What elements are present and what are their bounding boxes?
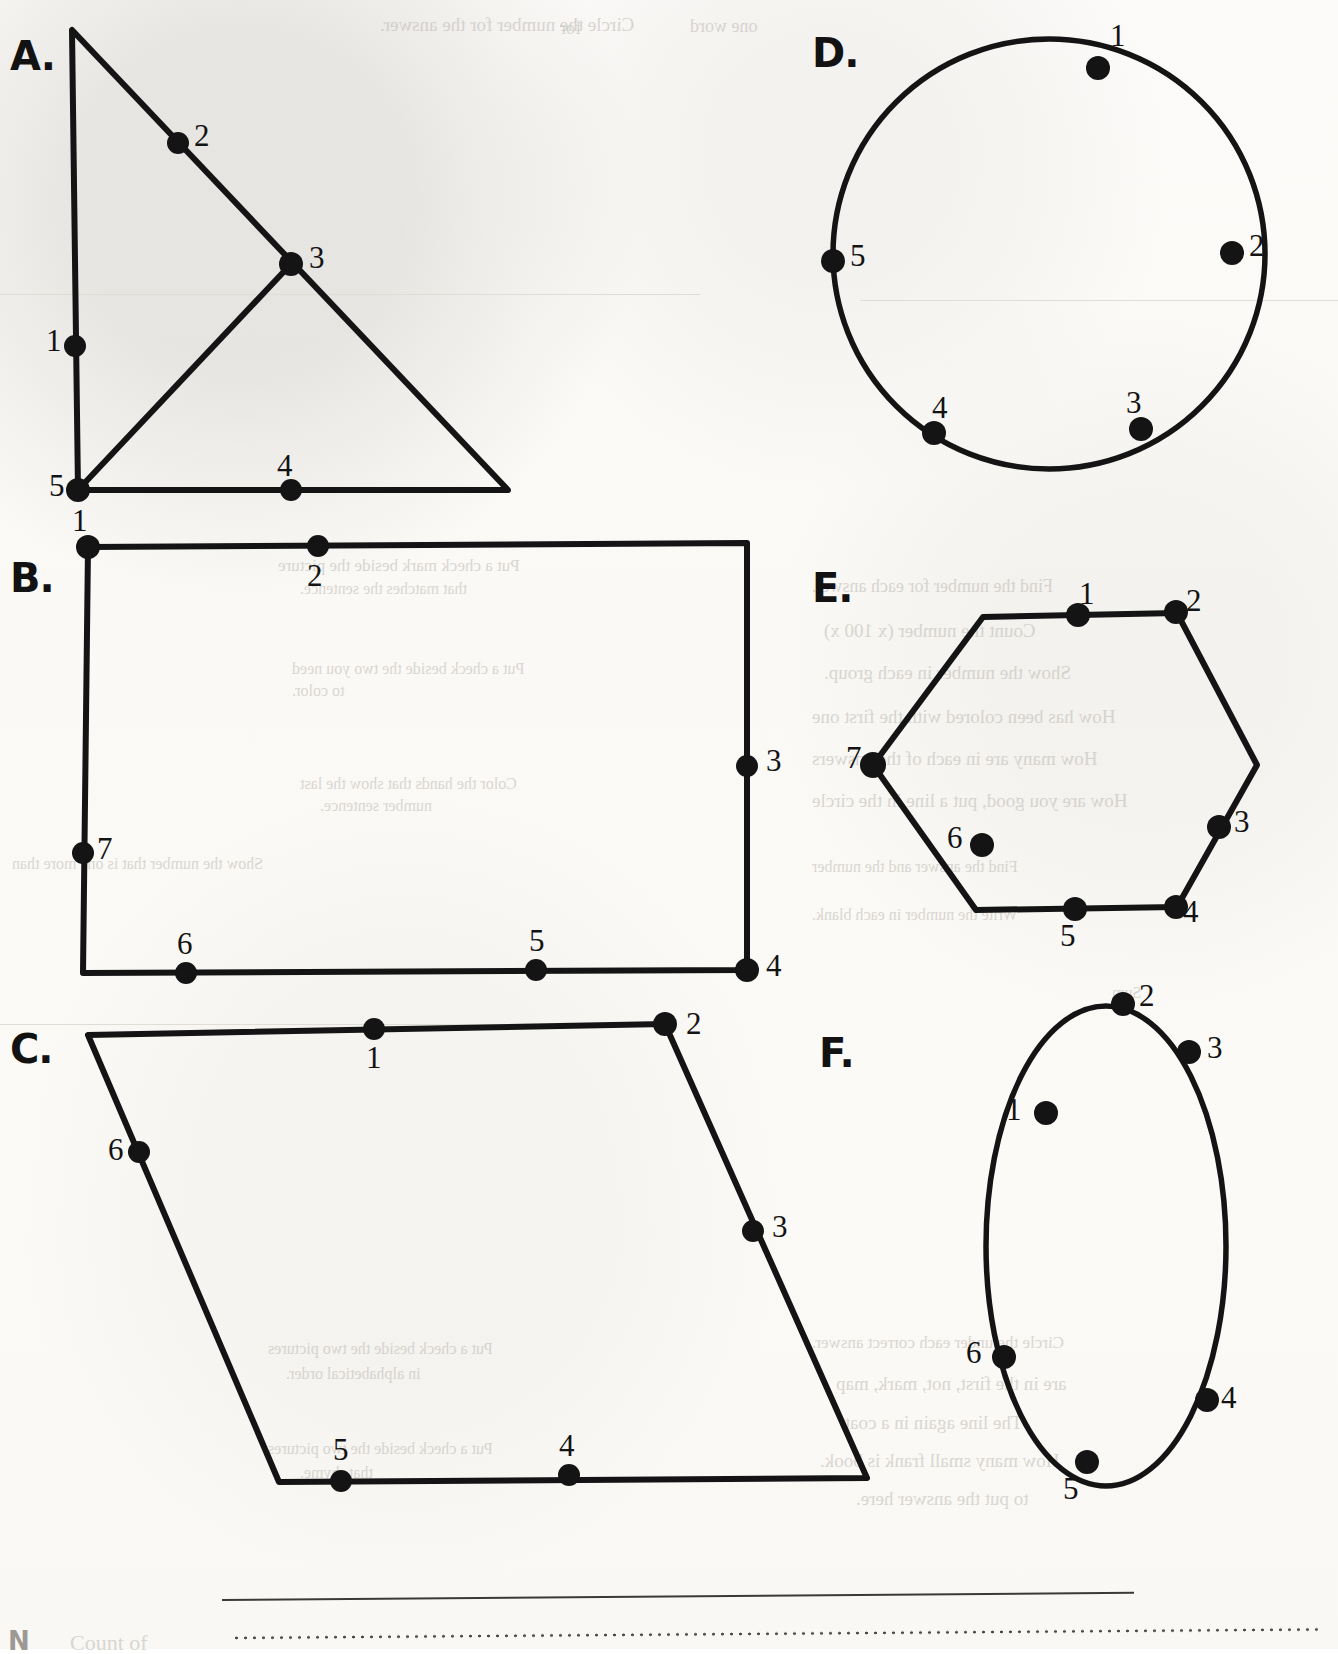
figure-e-hexagon <box>820 560 1338 980</box>
point-label-e-2: 2 <box>1186 585 1202 616</box>
point-label-c-3: 3 <box>772 1211 788 1242</box>
point-dot <box>860 752 886 778</box>
figure-b-rectangle <box>0 500 820 1010</box>
point-dot <box>72 842 94 864</box>
point-dot <box>742 1220 764 1242</box>
point-dot <box>1129 417 1153 441</box>
point-label-b-6: 6 <box>177 928 193 959</box>
point-dot <box>821 249 845 273</box>
point-label-f-1: 1 <box>1006 1094 1022 1125</box>
point-dot <box>330 1470 352 1492</box>
point-label-a-3: 3 <box>309 242 325 273</box>
figure-f-ellipse <box>960 960 1338 1520</box>
point-label-d-4: 4 <box>932 392 948 423</box>
point-label-d-2: 2 <box>1249 230 1265 261</box>
point-dot <box>992 1345 1016 1369</box>
point-label-a-5: 5 <box>49 470 65 501</box>
point-dot <box>558 1464 580 1486</box>
point-dot <box>175 962 197 984</box>
rectangle-outline <box>83 543 747 973</box>
ellipse-outline <box>986 1006 1226 1486</box>
point-label-c-6: 6 <box>108 1134 124 1165</box>
point-dot <box>735 958 759 982</box>
point-dot <box>970 833 994 857</box>
triangle-inner-segment <box>78 264 291 490</box>
horizontal-rule <box>222 1592 1134 1601</box>
point-dot <box>1207 815 1231 839</box>
bottom-left-glyph: N <box>8 1626 30 1654</box>
point-label-b-7: 7 <box>97 833 113 864</box>
dotted-rule <box>232 1627 1318 1640</box>
figure-a-triangle <box>0 0 600 520</box>
point-dot <box>279 252 303 276</box>
point-dot <box>1164 600 1188 624</box>
point-label-f-2: 2 <box>1139 980 1155 1011</box>
figure-letter-f: F. <box>819 1030 854 1076</box>
point-label-c-1: 1 <box>366 1042 382 1073</box>
point-dot <box>525 959 547 981</box>
point-label-a-4: 4 <box>277 450 293 481</box>
point-dot <box>1086 56 1110 80</box>
point-dot <box>736 755 758 777</box>
point-label-b-3: 3 <box>766 745 782 776</box>
point-dot <box>363 1018 385 1040</box>
point-dot <box>1034 1101 1058 1125</box>
point-label-f-4: 4 <box>1221 1382 1237 1413</box>
point-dot <box>307 535 329 557</box>
point-label-f-3: 3 <box>1207 1032 1223 1063</box>
point-dot <box>167 132 189 154</box>
point-dot <box>1195 1388 1219 1412</box>
figure-letter-d: D. <box>812 30 858 76</box>
point-label-c-5: 5 <box>333 1434 349 1465</box>
point-dot <box>1177 1040 1201 1064</box>
point-label-b-4: 4 <box>766 950 782 981</box>
point-label-c-4: 4 <box>559 1430 575 1461</box>
point-dot <box>64 335 86 357</box>
ghost-text-line: one word <box>690 16 757 37</box>
figure-letter-e: E. <box>812 565 853 611</box>
point-label-b-1: 1 <box>72 505 88 536</box>
point-dot <box>1075 1450 1099 1474</box>
figure-letter-a: A. <box>10 33 55 79</box>
point-label-a-1: 1 <box>46 325 62 356</box>
point-label-f-5: 5 <box>1063 1473 1079 1504</box>
point-label-b-5: 5 <box>529 925 545 956</box>
point-label-d-3: 3 <box>1126 387 1142 418</box>
point-label-e-1: 1 <box>1079 578 1095 609</box>
point-label-d-1: 1 <box>1110 20 1126 51</box>
figure-letter-c: C. <box>10 1026 53 1072</box>
parallelogram-outline <box>88 1024 867 1482</box>
point-label-c-2: 2 <box>686 1008 702 1039</box>
point-dot <box>1220 241 1244 265</box>
point-dot <box>76 535 100 559</box>
circle-outline <box>833 39 1265 469</box>
point-dot <box>1111 992 1135 1016</box>
point-label-e-5: 5 <box>1060 920 1076 951</box>
ghost-text-line: Count of <box>70 1630 148 1654</box>
point-label-e-4: 4 <box>1183 896 1199 927</box>
point-label-e-6: 6 <box>947 822 963 853</box>
point-dot <box>128 1141 150 1163</box>
point-label-a-2: 2 <box>194 120 210 151</box>
figure-c-parallelogram <box>0 990 900 1510</box>
point-dot <box>653 1012 677 1036</box>
point-label-f-6: 6 <box>966 1337 982 1368</box>
point-dot <box>66 478 90 502</box>
point-label-e-3: 3 <box>1234 806 1250 837</box>
hexagon-outline <box>873 613 1257 910</box>
figure-letter-b: B. <box>10 555 54 601</box>
point-label-b-2: 2 <box>307 560 323 591</box>
point-label-e-7: 7 <box>846 742 862 773</box>
point-label-d-5: 5 <box>850 240 866 271</box>
